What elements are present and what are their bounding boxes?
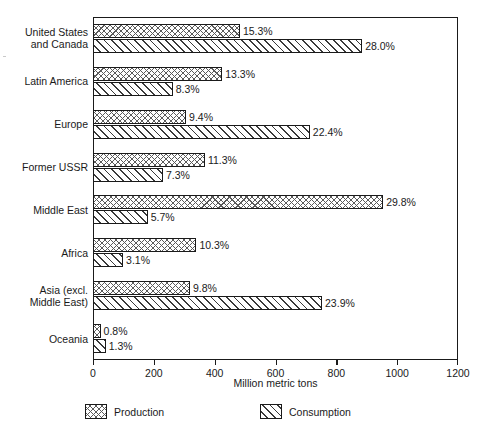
x-axis-tick [336,360,337,365]
bar-value-label: 10.3% [199,240,229,251]
bar-value-label: 9.8% [193,283,217,294]
bars-layer: 15.3%28.0%13.3%8.3%9.4%22.4%11.3%7.3%29.… [93,17,458,360]
bar-value-label: 22.4% [313,126,343,137]
bar-value-label: 29.8% [386,197,416,208]
bar-value-label: 9.4% [189,111,213,122]
bar-production: 15.3% [93,24,240,38]
x-axis-tick [397,360,398,365]
bar-consumption: 5.7% [93,210,148,224]
bar-production: 10.3% [93,238,196,252]
bar-value-label: 8.3% [176,83,200,94]
bar-value-label: 1.3% [109,341,133,352]
x-axis-tick [276,360,277,365]
bar-consumption: 22.4% [93,125,310,139]
category-label: Latin America [0,75,88,87]
bar-value-label: 5.7% [151,212,175,223]
chart-legend: ProductionConsumption [85,404,405,428]
legend-entry[interactable]: Production [85,404,164,419]
legend-entry[interactable]: Consumption [260,404,351,419]
bar-consumption: 28.0% [93,39,362,53]
bar-production: 9.4% [93,110,186,124]
category-label: Asia (excl. Middle East) [0,284,88,308]
bar-production: 29.8% [93,195,383,209]
category-label: Middle East [0,204,88,216]
category-label: Europe [0,118,88,130]
bar-value-label: 3.1% [126,255,150,266]
bar-consumption: 23.9% [93,296,322,310]
legend-swatch-consumption [260,404,282,419]
category-label: United States and Canada [0,26,88,50]
x-axis-title: Million metric tons [93,377,458,389]
category-label: Former USSR [0,161,88,173]
x-axis-tick [93,360,94,365]
bar-value-label: 11.3% [208,154,237,165]
bar-production: 13.3% [93,67,222,81]
bar-consumption: 7.3% [93,168,163,182]
bar-value-label: 15.3% [243,25,273,36]
bar-production: 11.3% [93,153,205,167]
bar-value-label: 13.3% [225,68,255,79]
bar-production: 9.8% [93,281,190,295]
bar-value-label: 28.0% [365,40,395,51]
bar-chart: United States and CanadaLatin AmericaEur… [0,0,488,439]
category-label: Oceania [0,333,88,345]
category-axis-labels: United States and CanadaLatin AmericaEur… [0,17,88,360]
legend-swatch-production [85,404,107,419]
bar-value-label: 7.3% [166,169,190,180]
legend-label: Consumption [289,406,351,418]
legend-label: Production [114,406,164,418]
bar-consumption: 8.3% [93,82,173,96]
bar-consumption: 3.1% [93,253,123,267]
x-axis-tick [215,360,216,365]
bar-value-label: 23.9% [325,298,355,309]
category-label: Africa [0,247,88,259]
bar-value-label: 0.8% [104,326,128,337]
bar-production: 0.8% [93,324,101,338]
x-axis-tick [154,360,155,365]
bar-consumption: 1.3% [93,339,106,353]
x-axis-tick [457,360,458,365]
